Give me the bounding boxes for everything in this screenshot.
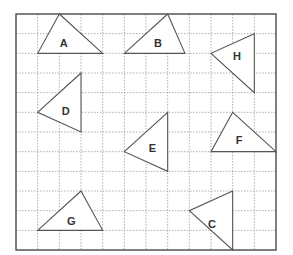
triangle-label: F	[236, 134, 243, 146]
triangle-label: E	[149, 142, 156, 154]
triangle-label: C	[208, 218, 216, 230]
grid-diagram: ABHDEFGC	[0, 0, 293, 255]
triangle-label: D	[62, 105, 70, 117]
triangle-label: G	[67, 215, 76, 227]
triangle-label: B	[154, 37, 162, 49]
triangle-label: H	[233, 50, 241, 62]
triangle-label: A	[60, 37, 68, 49]
triangle-c: C	[189, 191, 232, 250]
